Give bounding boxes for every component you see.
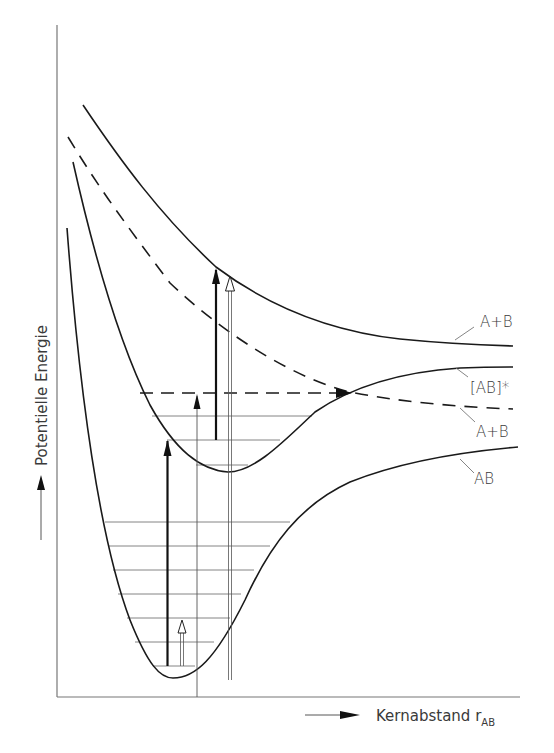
- small-open-arrow: [178, 620, 186, 666]
- potential-energy-diagram: A+B [AB]* A+B AB Potentielle Energie Ker…: [0, 0, 554, 753]
- arrowhead-icon: [164, 440, 172, 456]
- dashed-arrowhead-icon: [336, 388, 352, 398]
- label-dashed-a-plus-b: A+B: [476, 423, 509, 441]
- x-axis-label-subscript: AB: [481, 717, 495, 728]
- x-axis-label-main: Kernabstand r: [376, 707, 482, 725]
- label-upper-a-plus-b: A+B: [480, 313, 513, 331]
- ground-state-curve: [67, 228, 518, 678]
- x-axis-label: Kernabstand rAB: [376, 707, 495, 728]
- x-axis-label-group: Kernabstand rAB: [305, 707, 495, 728]
- ground-vibrational-levels: [105, 522, 290, 666]
- open-arrow-ground-to-upper: [226, 276, 235, 680]
- y-axis-arrow-icon: [37, 475, 45, 490]
- y-axis-label: Potentielle Energie: [33, 325, 51, 466]
- excited-vibrational-levels: [152, 416, 312, 465]
- excited-bound-curve: [73, 162, 513, 472]
- label-ab: AB: [474, 470, 494, 488]
- arrowhead-icon: [212, 268, 220, 284]
- upper-repulsive-curve: [83, 105, 513, 346]
- label-ab-star: [AB]*: [470, 379, 509, 397]
- label-leaders: [455, 327, 475, 473]
- y-axis-label-group: Potentielle Energie: [33, 325, 51, 540]
- x-axis-arrow-icon: [340, 711, 360, 719]
- arrowhead-icon: [194, 394, 201, 409]
